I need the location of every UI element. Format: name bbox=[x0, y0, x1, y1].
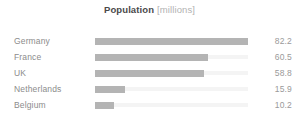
bar-label-netherlands: Netherlands bbox=[14, 81, 61, 97]
bar-value-uk: 58.8 bbox=[275, 65, 292, 81]
bar-track bbox=[95, 55, 248, 59]
bar-track bbox=[95, 103, 248, 107]
table-row: UK 58.8 bbox=[0, 65, 299, 81]
bar-label-germany: Germany bbox=[14, 33, 50, 49]
table-row: France 60.5 bbox=[0, 49, 299, 65]
chart-title: Population[millions] bbox=[0, 4, 299, 16]
bar-value-germany: 82.2 bbox=[275, 33, 292, 49]
bar-fill-belgium bbox=[95, 102, 114, 109]
bar-value-france: 60.5 bbox=[275, 49, 292, 65]
bar-label-uk: UK bbox=[14, 65, 26, 81]
bar-fill-france bbox=[95, 54, 208, 61]
bar-track bbox=[95, 71, 248, 75]
bar-label-france: France bbox=[14, 49, 41, 65]
table-row: Germany 82.2 bbox=[0, 33, 299, 49]
chart-title-unit: [millions] bbox=[157, 4, 195, 15]
table-row: Netherlands 15.9 bbox=[0, 81, 299, 97]
bar-value-netherlands: 15.9 bbox=[275, 81, 292, 97]
bar-label-belgium: Belgium bbox=[14, 97, 46, 113]
population-bar-chart: Population[millions] Germany 82.2 France… bbox=[0, 0, 299, 120]
bar-fill-uk bbox=[95, 70, 204, 77]
table-row: Belgium 10.2 bbox=[0, 97, 299, 113]
bar-value-belgium: 10.2 bbox=[275, 97, 292, 113]
bar-track bbox=[95, 39, 248, 43]
chart-title-main: Population bbox=[104, 4, 154, 15]
bar-rows: Germany 82.2 France 60.5 UK 58.8 Netherl… bbox=[0, 33, 299, 113]
bar-fill-netherlands bbox=[95, 86, 125, 93]
bar-track bbox=[95, 87, 248, 91]
bar-fill-germany bbox=[95, 38, 248, 45]
